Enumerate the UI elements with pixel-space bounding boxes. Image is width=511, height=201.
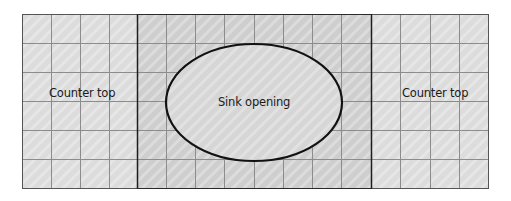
right-counter-label: Counter top: [402, 86, 468, 100]
sink-opening-label: Sink opening: [218, 95, 290, 109]
sink-countertop-diagram: Counter top Sink opening Counter top: [0, 0, 511, 201]
left-counter-label: Counter top: [49, 86, 115, 100]
